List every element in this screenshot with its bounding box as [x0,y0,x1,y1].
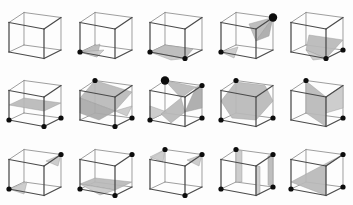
figure-root [0,0,353,205]
panel-r2-c0[interactable] [0,137,71,205]
vertex-marker-back_top_left[interactable] [92,78,97,83]
cube-back-edges [9,13,61,52]
vertex-marker-front_bottom_left[interactable] [77,49,82,54]
vertex-marker-front_bottom_right[interactable] [324,56,329,61]
vertex-marker-front_bottom_left[interactable] [218,186,223,191]
panel-r2-c3[interactable] [212,137,283,205]
cross-section-group [150,149,202,165]
panel-r1-c2[interactable] [141,68,212,136]
panel-r1-c1-canvas [71,68,142,136]
vertex-marker-back_bottom_right[interactable] [341,47,346,52]
cube-edge-front_bottom_left-to-back_bottom_left [291,113,306,120]
vertex-marker-back_bottom_right[interactable] [270,184,275,189]
panel-r2-c2[interactable] [141,137,212,205]
cube-edge-front_bottom_left-to-front_bottom_right [9,52,44,58]
panel-r0-c1[interactable] [71,0,142,68]
cross-section-group [9,98,61,111]
vertex-marker-front_bottom_left[interactable] [6,118,11,123]
cube-back-edges [9,149,61,188]
cube-edge-front_top_right-to-front_top_left [80,22,115,28]
cube-edge-front_bottom_right-to-back_bottom_right [115,50,132,58]
cube-edge-front_top_right-to-back_top_right [326,17,343,28]
cube-edge-back_top_right-to-back_top_left [95,149,132,154]
vertex-marker-front_bottom_left[interactable] [218,49,223,54]
panel-r1-c4-canvas [282,68,353,136]
vertex-marker-front_bottom_right[interactable] [112,192,117,197]
panel-r1-c0-canvas [0,68,71,136]
cube-edge-back_top_right-to-back_top_left [165,149,202,154]
cube-edge-front_top_left-to-back_top_left [221,149,236,159]
cube-back-edges [221,149,273,188]
vertex-marker-back_top_left[interactable] [163,146,168,151]
cube-edge-front_bottom_right-to-back_bottom_right [326,118,343,126]
panel-r1-c4[interactable] [282,68,353,136]
vertex-marker-front_bottom_left[interactable] [289,186,294,191]
vertex-marker-back_top_right[interactable] [269,13,277,21]
vertex-marker-back_top_right[interactable] [129,151,134,156]
panel-r1-c1[interactable] [71,68,142,136]
panel-r0-c4-canvas [282,0,353,68]
vertex-marker-front_bottom_left[interactable] [148,49,153,54]
panel-r0-c4[interactable] [282,0,353,68]
cross-section-group [80,178,132,195]
panel-r2-c3-canvas [212,137,283,205]
vertex-marker-back_top_left[interactable] [233,146,238,151]
vertex-marker-back_bottom_right[interactable] [341,116,346,121]
cube-edge-front_top_right-to-front_top_left [9,22,44,28]
cube-edge-back_bottom_left-to-back_bottom_right [236,45,273,50]
panel-r0-c3[interactable] [212,0,283,68]
panel-r2-c1-canvas [71,137,142,205]
cube-edge-front_top_right-to-front_top_left [80,159,115,165]
cube-edge-back_bottom_left-to-back_bottom_right [95,45,132,50]
cube-edge-front_bottom_right-to-back_bottom_right [256,118,273,126]
vertex-marker-back_top_right[interactable] [200,83,205,88]
vertex-marker-back_top_right[interactable] [58,151,63,156]
panel-r0-c0-canvas [0,0,71,68]
vertex-marker-front_bottom_left[interactable] [148,118,153,123]
vertex-marker-front_bottom_right[interactable] [41,124,46,129]
vertex-marker-back_bottom_right[interactable] [58,116,63,121]
vertex-marker-front_bottom_left[interactable] [218,118,223,123]
cross-section-polygon-1 [326,86,343,113]
cube-edge-front_top_right-to-back_top_right [185,17,202,28]
vertex-marker-front_bottom_right[interactable] [112,124,117,129]
vertex-marker-back_bottom_right[interactable] [200,116,205,121]
vertex-marker-front_bottom_left[interactable] [77,186,82,191]
vertex-marker-front_bottom_left[interactable] [6,186,11,191]
vertex-marker-back_top_right[interactable] [270,151,275,156]
vertex-marker-back_top_left[interactable] [304,78,309,83]
cube-edge-front_top_right-to-front_top_left [150,22,185,28]
vertex-marker-front_bottom_right[interactable] [183,192,188,197]
vertex-marker-back_top_left[interactable] [233,78,238,83]
panel-r2-c1[interactable] [71,137,142,205]
panel-r0-c0[interactable] [0,0,71,68]
cube-edge-front_bottom_left-to-front_bottom_right [221,120,256,126]
cube-edge-front_bottom_left-to-back_bottom_left [291,45,306,52]
vertex-marker-group [77,49,82,54]
panel-r2-c4[interactable] [282,137,353,205]
cube-edge-front_top_right-to-back_top_right [115,154,132,165]
panel-r1-c0[interactable] [0,68,71,136]
cube-edge-front_bottom_right-to-back_bottom_right [44,50,61,58]
cube-edge-front_bottom_left-to-front_bottom_right [150,189,185,195]
vertex-marker-back_top_right[interactable] [341,151,346,156]
cube-edge-front_top_left-to-back_top_left [9,149,24,159]
vertex-marker-back_bottom_right[interactable] [129,116,134,121]
panel-r1-c3-canvas [212,68,283,136]
cube-edge-back_bottom_left-to-back_bottom_right [236,182,273,187]
cube-edge-front_top_right-to-back_top_right [115,17,132,28]
vertex-marker-back_bottom_right[interactable] [270,116,275,121]
cube-edge-front_bottom_left-to-front_bottom_right [9,120,44,126]
panel-r1-c3[interactable] [212,68,283,136]
vertex-marker-back_top_right[interactable] [200,151,205,156]
vertex-marker-front_bottom_right[interactable] [183,56,188,61]
cross-section-polygon-0 [221,82,273,120]
cube-back-edges [150,13,202,52]
panel-r0-c2[interactable] [141,0,212,68]
panel-r2-c0-canvas [0,137,71,205]
cross-section-group [80,81,132,120]
vertex-marker-back_bottom_right[interactable] [341,184,346,189]
vertex-marker-back_top_left[interactable] [161,77,169,85]
cross-section-group [221,82,273,120]
cube-edge-front_bottom_right-to-back_bottom_right [44,187,61,195]
